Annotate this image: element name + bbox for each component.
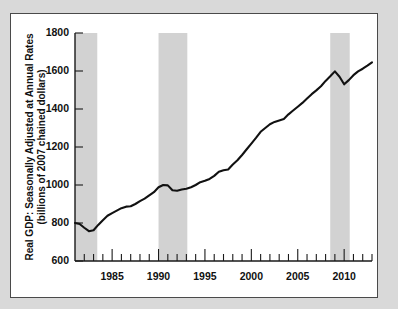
y-tick-label-1200: 1200 <box>46 140 70 152</box>
recession-band-3 <box>330 33 349 261</box>
y-tick-label-1000: 1000 <box>46 178 70 190</box>
x-tick-label-2010: 2010 <box>332 270 356 282</box>
y-axis-title-line-2: (billions of 2007 chained dollars) <box>36 69 47 224</box>
x-tick-label-1995: 1995 <box>193 270 217 282</box>
x-tick-label-1990: 1990 <box>147 270 171 282</box>
x-tick-label-1985: 1985 <box>100 270 124 282</box>
y-tick-label-1600: 1600 <box>46 64 70 76</box>
y-tick-label-800: 800 <box>51 216 69 228</box>
y-tick-label-600: 600 <box>51 254 69 266</box>
gdp-data-line <box>75 62 372 231</box>
recession-band-2 <box>159 33 188 261</box>
y-tick-label-1400: 1400 <box>46 102 70 114</box>
x-tick-label-2005: 2005 <box>286 270 310 282</box>
gdp-line-chart: 6008001000120014001600180019851990199520… <box>11 14 377 297</box>
y-axis-title-line-1: Real GDP: Seasonally Adjusted at Annual … <box>24 33 35 261</box>
y-tick-label-1800: 1800 <box>46 26 70 38</box>
chart-figure-panel: 6008001000120014001600180019851990199520… <box>10 13 378 298</box>
x-tick-label-2000: 2000 <box>240 270 264 282</box>
